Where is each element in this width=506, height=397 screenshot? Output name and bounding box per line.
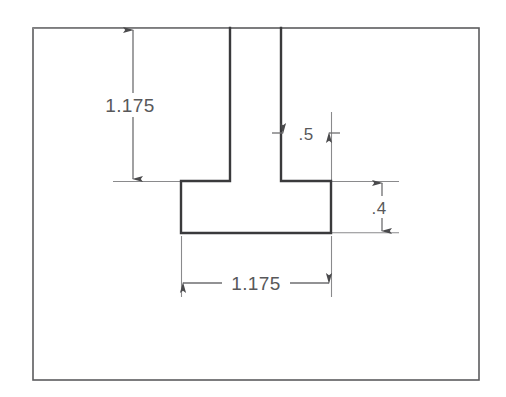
- dimension-label-horizontal-pocket-width: 1.175: [231, 273, 281, 294]
- dimension-label-horizontal-neck: .5: [299, 125, 314, 144]
- technical-drawing-canvas: 1.175 .5 .4 1.175: [0, 0, 506, 397]
- drawing-frame: [33, 28, 479, 380]
- dimension-label-vertical-pocket-height: .4: [372, 199, 387, 218]
- dimension-label-vertical-depth: 1.175: [105, 95, 155, 116]
- technical-drawing-svg: 1.175 .5 .4 1.175: [0, 0, 506, 397]
